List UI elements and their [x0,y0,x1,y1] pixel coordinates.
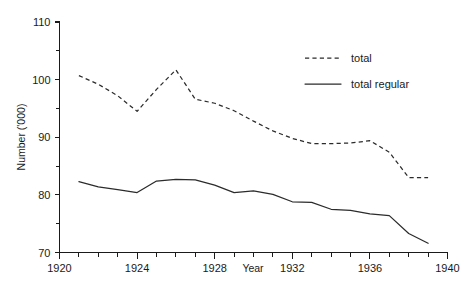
line-chart: 708090100110 192019241928193219361940 Ye… [0,0,474,297]
x-axis-title: Year [242,262,264,274]
series-line-total-regular [79,179,428,243]
y-tick-label: 100 [32,74,50,86]
data-series-group [79,70,428,243]
chart-legend: totaltotal regular [305,52,409,90]
x-tick-label: 1924 [125,262,149,274]
y-tick-label: 70 [38,247,50,259]
chart-container: 708090100110 192019241928193219361940 Ye… [0,0,474,297]
y-tick-label: 80 [38,189,50,201]
y-axis-tick-labels: 708090100110 [32,16,50,259]
y-tick-label: 90 [38,131,50,143]
y-axis-major-ticks [55,22,60,253]
x-tick-label: 1932 [280,262,304,274]
x-tick-label: 1936 [358,262,382,274]
legend-label: total [351,52,372,64]
chart-axes [60,22,448,253]
x-tick-label: 1920 [47,262,71,274]
y-axis-title: Number ('000) [15,104,27,171]
legend-label: total regular [351,78,409,90]
x-tick-label: 1928 [202,262,226,274]
x-axis-minor-ticks [79,253,428,257]
x-tick-label: 1940 [435,262,459,274]
y-tick-label: 110 [33,16,51,28]
